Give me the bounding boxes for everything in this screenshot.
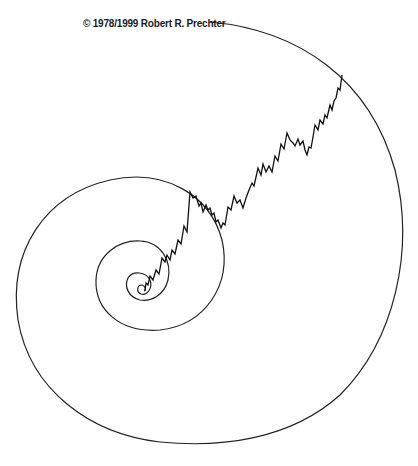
copyright-notice: © 1978/1999 Robert R. Prechter [83, 18, 226, 29]
elliott-wave-line [145, 75, 342, 291]
logarithmic-spiral [16, 22, 402, 444]
spiral-diagram: © 1978/1999 Robert R. Prechter [0, 0, 418, 466]
